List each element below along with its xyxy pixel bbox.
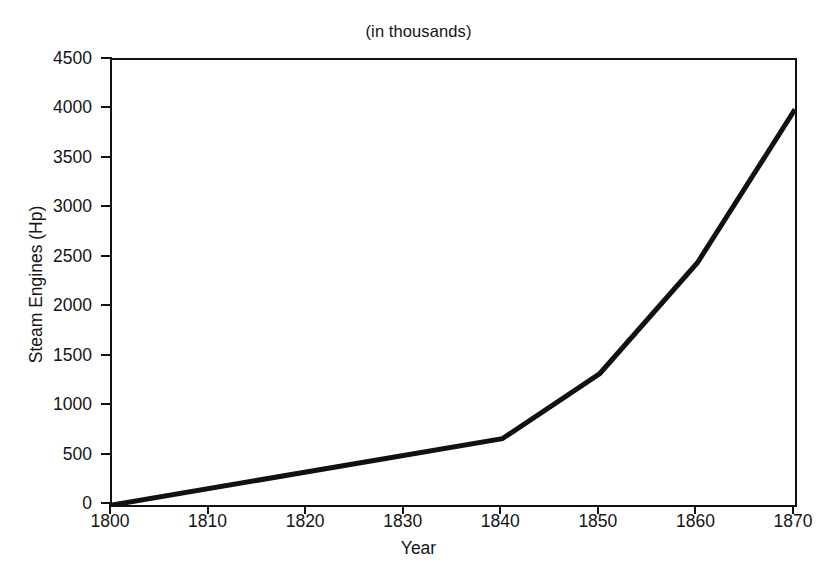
plot-area bbox=[110, 58, 797, 507]
series-steam-engines-line bbox=[112, 109, 795, 505]
y-axis-tick-label: 3500 bbox=[53, 146, 92, 167]
x-axis-tick-label: 1800 bbox=[91, 511, 130, 532]
x-axis-tick-label: 1840 bbox=[481, 511, 520, 532]
y-axis-tick-label: 0 bbox=[82, 493, 92, 514]
y-axis-tick-label: 2500 bbox=[53, 245, 92, 266]
y-axis-tick-label: 1500 bbox=[53, 344, 92, 365]
y-axis-tick-label: 4500 bbox=[53, 48, 92, 69]
x-axis-tick-label: 1830 bbox=[383, 511, 422, 532]
x-axis-tick-label: 1860 bbox=[676, 511, 715, 532]
x-axis-tick-label: 1810 bbox=[188, 511, 227, 532]
x-axis-tick-label: 1850 bbox=[578, 511, 617, 532]
y-axis-tick-label: 2000 bbox=[53, 295, 92, 316]
chart-title: (in thousands) bbox=[0, 22, 837, 41]
y-axis-tick-label: 4000 bbox=[53, 97, 92, 118]
data-line-svg bbox=[112, 60, 795, 505]
x-axis-tick-label: 1820 bbox=[286, 511, 325, 532]
y-axis-tick-label: 3000 bbox=[53, 196, 92, 217]
x-axis-title: Year bbox=[0, 538, 837, 559]
chart-figure: (in thousands) 0500100015002000250030003… bbox=[0, 0, 837, 573]
y-axis-title: Steam Engines (Hp) bbox=[26, 85, 47, 485]
y-axis-tick-label: 1000 bbox=[53, 394, 92, 415]
y-axis-tick-label: 500 bbox=[63, 443, 92, 464]
x-axis-tick-label: 1870 bbox=[774, 511, 813, 532]
